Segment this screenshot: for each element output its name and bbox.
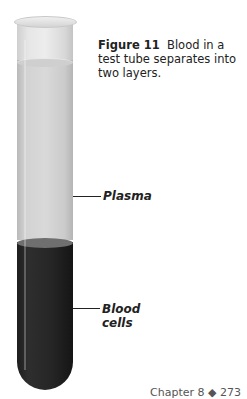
blood-cells-label: Blood cells <box>102 302 140 330</box>
figure-number: Figure 11 <box>98 38 160 52</box>
blood-cells-leader-line <box>73 308 100 309</box>
figure-caption: Figure 11 Blood in a test tube separates… <box>98 38 246 80</box>
blood-cells-label-line2: cells <box>102 316 140 330</box>
plasma-leader-line <box>73 196 101 197</box>
plasma-label: Plasma <box>103 189 152 203</box>
tube-rim <box>14 16 77 28</box>
page-footer: Chapter 8 ◆ 273 <box>150 386 241 399</box>
glass-highlight <box>24 40 26 370</box>
blood-cells-label-line1: Blood <box>102 302 140 316</box>
